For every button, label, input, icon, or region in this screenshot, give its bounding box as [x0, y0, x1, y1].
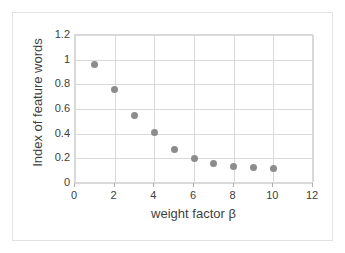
data-point: [111, 86, 118, 93]
y-axis-title: Index of feature words: [30, 23, 45, 183]
data-point: [131, 112, 138, 119]
x-axis-tick-label: 6: [178, 189, 208, 201]
x-axis-tick-label: 8: [218, 189, 248, 201]
x-axis-tick-label: 10: [257, 189, 287, 201]
y-axis-tick-label: 0.6: [55, 103, 70, 114]
data-point: [250, 164, 257, 171]
x-axis-tick-label: 12: [297, 189, 327, 201]
y-axis-tick-label: 1.2: [55, 29, 70, 40]
gridline-vertical: [313, 35, 314, 182]
x-axis-tick-label: 2: [99, 189, 129, 201]
data-point: [171, 146, 178, 153]
data-point: [91, 61, 98, 68]
chart-frame: 00.20.40.60.811.2 024681012 weight facto…: [12, 12, 333, 241]
gridline-vertical: [75, 35, 76, 182]
y-axis-tick-label: 0: [64, 177, 70, 188]
data-point: [210, 160, 217, 167]
plot-area: [74, 34, 313, 183]
data-point: [270, 165, 277, 172]
x-axis-tick-label: 0: [59, 189, 89, 201]
y-axis-tick-label: 0.2: [55, 152, 70, 163]
x-axis-tick-label: 4: [138, 189, 168, 201]
data-point: [230, 163, 237, 170]
gridline-vertical: [273, 35, 274, 182]
chart-container: 00.20.40.60.811.2 024681012 weight facto…: [0, 0, 345, 253]
gridline-vertical: [234, 35, 235, 182]
gridline-vertical: [154, 35, 155, 182]
gridline-vertical: [115, 35, 116, 182]
x-axis-tick-labels: 024681012: [74, 183, 313, 207]
data-point: [151, 129, 158, 136]
y-axis-tick-label: 0.4: [55, 128, 70, 139]
x-axis-title: weight factor β: [74, 206, 313, 221]
y-axis-tick-label: 1: [64, 54, 70, 65]
data-point: [191, 155, 198, 162]
y-axis-tick-label: 0.8: [55, 78, 70, 89]
